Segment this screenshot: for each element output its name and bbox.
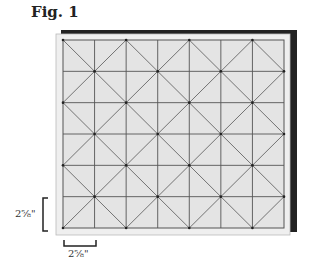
- vertical-dimension-label: 2⅝": [15, 208, 36, 219]
- quilt-grid-diagram: [0, 0, 309, 278]
- vertical-dimension-bracket: [43, 198, 48, 231]
- horizontal-dimension-label: 2⅝": [68, 248, 89, 259]
- horizontal-dimension-bracket: [64, 240, 96, 246]
